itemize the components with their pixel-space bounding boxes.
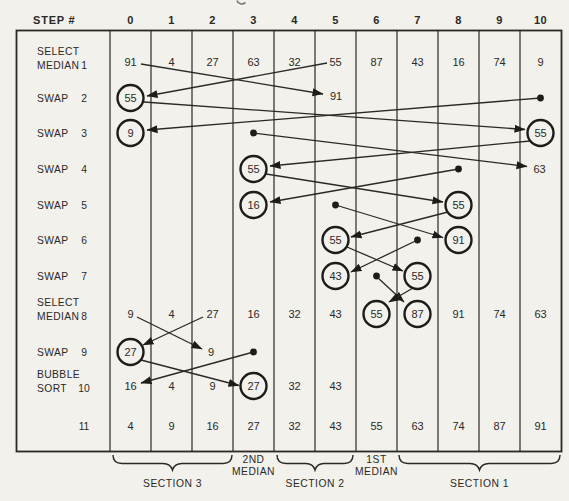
section3-label: SECTION 3 [143,478,202,489]
swap-arrow [351,212,448,237]
cell-r5-c8: 55 [452,199,464,211]
cell-r8-c2: 27 [206,308,218,320]
section1-label: SECTION 1 [450,478,509,489]
row1-step: 1 [81,60,87,71]
row8-label-line1: SELECT [37,297,80,308]
cell-r11-c7: 63 [411,420,423,432]
cell-r5-c3: 16 [247,199,259,211]
row5-step: 5 [81,200,87,211]
step-header-label: STEP # [33,14,76,26]
cell-r2-c5: 91 [330,90,342,102]
cell-r10-c1: 4 [168,380,174,392]
cell-r1-c3: 63 [247,56,259,68]
position-dot [537,95,544,102]
swap-arrow [336,205,444,238]
row5-label: SWAP [37,200,69,211]
cell-r11-c1: 9 [168,420,174,432]
column-header-5: 5 [332,14,339,26]
cell-r3-c10: 55 [534,127,546,139]
cell-r9-c0: 27 [124,346,136,358]
row2-label: SWAP [37,93,69,104]
cell-r11-c10: 91 [534,420,546,432]
position-dot [332,202,339,209]
cropped-caption-fragment [237,1,246,4]
row3-label: SWAP [37,128,69,139]
column-header-8: 8 [455,14,462,26]
column-header-3: 3 [250,14,257,26]
cell-r11-c6: 55 [370,420,382,432]
cell-r6-c8: 91 [452,234,464,246]
cell-r11-c3: 27 [247,420,259,432]
column-header-4: 4 [291,14,298,26]
swap-arrow [270,169,459,202]
header-row: STEP # 0 1 2 3 4 5 6 7 8 9 10 [33,14,547,26]
row11-step: 11 [79,421,90,432]
cell-r4-c3: 55 [247,163,259,175]
cell-r10-c3: 27 [247,380,259,392]
cell-r8-c10: 63 [534,308,546,320]
row-labels: SELECT MEDIAN 1 SWAP 2 SWAP 3 SWAP 4 SWA… [37,46,90,432]
column-header-10: 10 [534,14,547,26]
cell-r1-c1: 4 [168,56,174,68]
row2-step: 2 [81,93,87,104]
position-dot [250,130,257,137]
column-header-9: 9 [496,14,503,26]
row3-step: 3 [81,128,87,139]
swap-arrow [141,352,254,383]
column-header-0: 0 [127,14,134,26]
section2-brace [277,455,353,470]
cell-r8-c8: 91 [452,308,464,320]
row1-label-line1: SELECT [37,46,80,57]
column-header-1: 1 [168,14,175,26]
column-header-7: 7 [414,14,421,26]
cell-r1-c4: 32 [288,56,300,68]
median1-label-line2: MEDIAN [355,466,398,477]
row8-step: 8 [81,311,87,322]
median2-label-line2: MEDIAN [232,466,275,477]
swap-arrow [377,277,404,302]
row9-step: 9 [81,347,87,358]
cell-r8-c0: 9 [127,308,133,320]
swap-arrow [143,317,203,345]
median1-label-line1: 1ST [366,454,387,465]
row6-step: 6 [81,235,87,246]
swap-arrow [254,133,528,167]
column-header-6: 6 [373,14,380,26]
cell-r6-c5: 55 [329,234,341,246]
cell-r9-c2: 9 [208,346,214,358]
position-dot [373,273,380,280]
row1-label-line2: MEDIAN [37,60,79,71]
row9-label: SWAP [37,347,69,358]
cell-r11-c5: 43 [329,420,341,432]
cell-r11-c0: 4 [127,420,133,432]
cell-r3-c0: 9 [127,127,133,139]
cell-r8-c5: 43 [329,308,341,320]
cell-r1-c5: 55 [329,56,341,68]
cell-r8-c9: 74 [493,308,505,320]
cell-r1-c7: 43 [411,56,423,68]
cell-r1-c2: 27 [206,56,218,68]
cell-r10-c0: 16 [124,380,136,392]
row7-step: 7 [81,271,87,282]
row7-label: SWAP [37,271,69,282]
cell-r1-c0: 91 [124,56,136,68]
cell-r10-c5: 43 [329,380,341,392]
cell-r7-c7: 55 [411,270,423,282]
footer: SECTION 3 2ND MEDIAN SECTION 2 1ST MEDIA… [113,454,560,489]
cell-r11-c4: 32 [288,420,300,432]
median2-label-line1: 2ND [242,454,264,465]
cell-r8-c6: 55 [370,308,382,320]
cell-r10-c4: 32 [288,380,300,392]
swap-arrow [147,98,541,130]
cell-r1-c9: 74 [493,56,505,68]
row10-label-line1: BUBBLE [37,369,80,380]
section1-brace [399,455,560,470]
sorting-diagram: STEP # 0 1 2 3 4 5 6 7 8 9 10 SELECT MED… [0,0,569,501]
position-dot [250,349,257,356]
row10-step: 10 [78,383,90,394]
diagram-canvas: STEP # 0 1 2 3 4 5 6 7 8 9 10 SELECT MED… [0,0,569,501]
cell-r11-c2: 16 [206,420,218,432]
cell-r8-c4: 32 [288,308,300,320]
cell-r11-c9: 87 [493,420,505,432]
cell-r11-c8: 74 [452,420,464,432]
